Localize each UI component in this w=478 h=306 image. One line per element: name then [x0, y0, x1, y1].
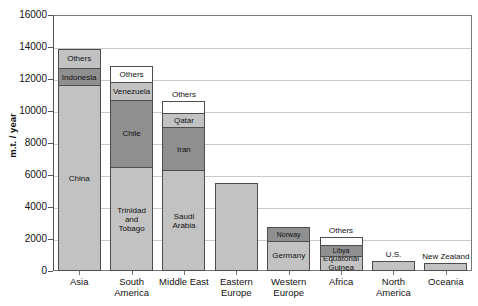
x-axis-label: Africa — [315, 276, 367, 287]
bar-segment[interactable]: Trinidad and Tobago — [110, 167, 153, 271]
bar-segment[interactable] — [424, 263, 467, 271]
bar-top-label: Others — [329, 226, 353, 235]
bar-segment[interactable]: Others — [58, 49, 101, 68]
bar-segment-label: China — [68, 174, 91, 183]
bar-segment[interactable] — [372, 261, 415, 271]
bar-segment[interactable]: Indonesia — [58, 68, 101, 86]
x-axis-tick-mark — [289, 271, 290, 275]
bar-segment[interactable]: Others — [110, 66, 153, 82]
y-axis-tick-label: 0 — [3, 265, 47, 276]
bar-segment[interactable] — [320, 237, 363, 244]
bar-segment[interactable]: Libya — [320, 245, 363, 256]
bar-segment-label: Saudi Arabia — [163, 212, 204, 230]
bar-segment-label: Equatorial Guinea — [321, 256, 362, 271]
x-axis-label: Oceania — [420, 276, 472, 287]
bar-segment-label: Iran — [176, 145, 192, 154]
bar-segment-label: Others — [119, 70, 145, 79]
bar-segment-label: Chile — [121, 129, 141, 138]
bar-group[interactable]: GermanyNorway — [267, 15, 310, 271]
bar-segment[interactable]: Chile — [110, 100, 153, 167]
bar-segment-label: Norway — [276, 231, 302, 239]
bar-segment[interactable] — [215, 183, 258, 271]
y-axis-tick-label: 2000 — [3, 233, 47, 244]
bar-segment[interactable]: Germany — [267, 241, 310, 271]
bars-layer: ChinaIndonesiaOthersTrinidad and TobagoC… — [53, 15, 472, 271]
bar-segment[interactable]: Norway — [267, 227, 310, 241]
bar-stack[interactable]: Equatorial GuineaLibya — [320, 237, 363, 271]
bar-group[interactable] — [215, 15, 258, 271]
x-axis-tick-mark — [341, 271, 342, 275]
y-axis-tick-label: 10000 — [3, 105, 47, 116]
x-axis-labels: AsiaSouth AmericaMiddle EastEastern Euro… — [53, 276, 472, 306]
bar-segment-label: Libya — [332, 247, 351, 255]
bar-group[interactable]: OthersSaudi ArabiaIranQatar — [162, 15, 205, 271]
bar-segment[interactable]: Saudi Arabia — [162, 170, 205, 271]
bar-group[interactable]: ChinaIndonesiaOthers — [58, 15, 101, 271]
bar-top-label: Others — [172, 90, 196, 99]
x-axis-tick-mark — [132, 271, 133, 275]
bar-segment-label: Trinidad and Tobago — [111, 206, 152, 233]
bar-group[interactable]: OthersEquatorial GuineaLibya — [320, 15, 363, 271]
bar-top-label: U.S. — [386, 250, 402, 259]
bar-stack[interactable]: Trinidad and TobagoChileVenezuelaOthers — [110, 66, 153, 271]
x-axis-tick-mark — [393, 271, 394, 275]
stacked-bar-chart: m.t. / year 0200040006000800010000120001… — [0, 0, 478, 306]
bar-segment[interactable]: Iran — [162, 127, 205, 170]
bar-stack[interactable]: ChinaIndonesiaOthers — [58, 49, 101, 271]
x-axis-label: North America — [367, 276, 419, 298]
x-axis-label: Western Europe — [263, 276, 315, 298]
y-axis-tick-mark — [48, 271, 53, 272]
x-axis-tick-mark — [236, 271, 237, 275]
bar-segment-label: Indonesia — [61, 73, 98, 82]
bar-segment[interactable]: Venezuela — [110, 82, 153, 100]
bar-segment-label: Qatar — [173, 116, 195, 125]
bar-stack[interactable]: GermanyNorway — [267, 227, 310, 271]
bar-segment[interactable] — [162, 101, 205, 112]
x-axis-tick-mark — [79, 271, 80, 275]
bar-segment[interactable]: China — [58, 85, 101, 271]
bar-stack[interactable]: Saudi ArabiaIranQatar — [162, 101, 205, 271]
bar-segment-label: Others — [66, 54, 92, 63]
bar-top-label: New Zealand — [422, 252, 469, 261]
y-axis-tick-label: 12000 — [3, 73, 47, 84]
bar-group[interactable]: Trinidad and TobagoChileVenezuelaOthers — [110, 15, 153, 271]
y-axis-tick-label: 6000 — [3, 169, 47, 180]
x-axis-label: Middle East — [158, 276, 210, 287]
y-axis-tick-label: 14000 — [3, 41, 47, 52]
x-axis-tick-mark — [184, 271, 185, 275]
bar-group[interactable]: U.S. — [372, 15, 415, 271]
bar-stack[interactable] — [372, 261, 415, 271]
y-axis-tick-label: 4000 — [3, 201, 47, 212]
y-axis-tick-label: 16000 — [3, 9, 47, 20]
bar-group[interactable]: New Zealand — [424, 15, 467, 271]
bar-stack[interactable] — [215, 183, 258, 271]
bar-segment[interactable]: Equatorial Guinea — [320, 256, 363, 271]
x-axis-label: Asia — [53, 276, 105, 287]
bar-segment-label: Germany — [271, 251, 306, 260]
x-axis-label: South America — [105, 276, 157, 298]
x-axis-label: Eastern Europe — [210, 276, 262, 298]
bar-segment-label: Venezuela — [112, 87, 151, 96]
bar-stack[interactable] — [424, 263, 467, 271]
bar-segment[interactable]: Qatar — [162, 113, 205, 127]
x-axis-tick-mark — [446, 271, 447, 275]
y-axis-tick-label: 8000 — [3, 137, 47, 148]
